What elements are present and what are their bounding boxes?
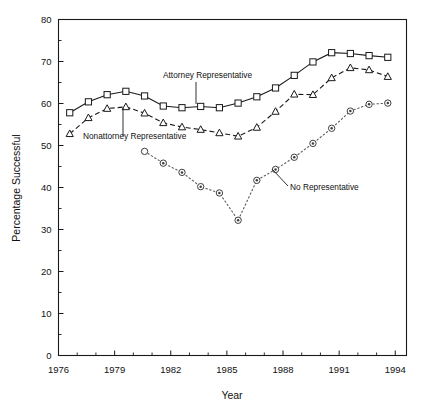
x-axis-title: Year — [221, 389, 243, 401]
data-point-triangle — [253, 124, 260, 131]
y-tick-label: 60 — [41, 98, 52, 109]
data-point-triangle — [291, 90, 298, 97]
data-point-triangle — [347, 64, 354, 71]
y-tick-label: 20 — [41, 266, 52, 277]
data-point-square — [329, 50, 335, 56]
y-axis-title: Percentage Successful — [10, 134, 22, 241]
data-point-square — [347, 50, 353, 56]
annotation-leader-line — [272, 169, 288, 186]
data-point-square — [385, 54, 391, 60]
data-point-circle-center — [162, 162, 165, 165]
data-point-square — [254, 94, 260, 100]
x-tick-label: 1991 — [329, 364, 350, 375]
data-point-square — [291, 72, 297, 78]
data-point-triangle — [328, 74, 335, 81]
data-point-square — [366, 53, 372, 59]
data-point-triangle — [160, 119, 167, 126]
data-point-circle-center — [330, 127, 333, 130]
annotation: Attorney Representative — [163, 70, 252, 104]
x-tick-label: 1994 — [385, 364, 406, 375]
data-point-square — [160, 103, 166, 109]
y-tick-label: 0 — [46, 350, 51, 361]
data-point-square — [67, 110, 73, 116]
data-point-square — [310, 59, 316, 65]
data-point-circle-center — [387, 102, 390, 105]
data-point-triangle — [272, 108, 279, 115]
data-point-circle-center — [218, 192, 221, 195]
y-tick-label: 70 — [41, 56, 52, 67]
chart-page: 01020304050607080 1976197919821985198819… — [0, 0, 424, 411]
data-point-circle-center — [274, 168, 277, 171]
y-tick-label: 10 — [41, 308, 52, 319]
data-point-square — [198, 103, 204, 109]
x-axis-ticks — [59, 351, 396, 356]
data-point-square — [141, 93, 147, 99]
annotation-label: Attorney Representative — [163, 70, 252, 80]
y-tick-label: 30 — [41, 224, 52, 235]
data-point-circle-center — [368, 103, 371, 106]
x-tick-label: 1979 — [104, 364, 125, 375]
series-attorney-representative — [67, 50, 391, 116]
data-point-square — [123, 88, 129, 94]
series-no-representative — [141, 100, 391, 224]
data-point-circle-center — [293, 156, 296, 159]
series-line — [70, 53, 388, 113]
data-point-square — [179, 105, 185, 111]
data-point-circle — [141, 148, 147, 154]
data-point-square — [216, 105, 222, 111]
data-point-circle-center — [349, 110, 352, 113]
x-tick-label: 1976 — [48, 364, 69, 375]
line-chart: 01020304050607080 1976197919821985198819… — [0, 0, 424, 411]
data-point-square — [104, 92, 110, 98]
data-point-circle-center — [237, 219, 240, 222]
data-point-square — [235, 100, 241, 106]
data-point-triangle — [85, 114, 92, 121]
annotation: No Representative — [272, 169, 359, 192]
data-point-circle-center — [256, 179, 259, 182]
data-point-square — [85, 99, 91, 105]
y-tick-label: 80 — [41, 14, 52, 25]
data-point-triangle — [365, 66, 372, 73]
x-axis-tick-labels: 1976197919821985198819911994 — [48, 364, 406, 375]
series-line — [145, 103, 388, 220]
y-tick-label: 50 — [41, 140, 52, 151]
x-tick-label: 1982 — [160, 364, 181, 375]
x-tick-label: 1985 — [216, 364, 237, 375]
y-tick-label: 40 — [41, 182, 52, 193]
y-axis-tick-labels: 01020304050607080 — [41, 14, 52, 361]
annotation-label: Nonattorney Representative — [83, 131, 187, 141]
data-point-circle-center — [181, 171, 184, 174]
x-tick-label: 1988 — [272, 364, 293, 375]
data-point-square — [272, 85, 278, 91]
annotation-label: No Representative — [290, 182, 359, 192]
data-point-circle-center — [312, 142, 315, 145]
y-axis-ticks — [59, 20, 64, 356]
data-point-triangle — [216, 129, 223, 136]
data-point-circle-center — [199, 185, 202, 188]
